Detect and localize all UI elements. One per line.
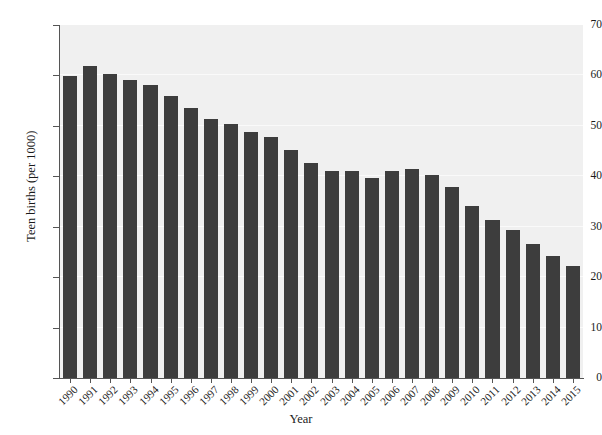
bar	[224, 124, 238, 378]
y-axis-tick	[53, 176, 59, 177]
gridline	[60, 226, 583, 227]
bar	[405, 169, 419, 378]
bar	[445, 187, 459, 378]
gridline	[60, 327, 583, 328]
y-axis-tick	[53, 227, 59, 228]
bar	[365, 178, 379, 378]
gridline	[60, 125, 583, 126]
y-axis-tick	[53, 328, 59, 329]
bar	[204, 119, 218, 378]
bar	[284, 150, 298, 378]
bar	[123, 80, 137, 378]
gridline	[60, 175, 583, 176]
y-axis-tick	[53, 126, 59, 127]
bar	[385, 171, 399, 378]
y-axis-tick-label: 40	[554, 170, 602, 182]
gridline	[60, 276, 583, 277]
bar	[244, 132, 258, 378]
y-axis-title: Teen births (per 1000)	[25, 66, 38, 306]
bar	[103, 74, 117, 378]
bar	[184, 108, 198, 378]
gridline	[60, 74, 583, 75]
y-axis-tick-label: 10	[554, 322, 602, 334]
bar	[83, 66, 97, 378]
bar	[304, 163, 318, 378]
y-axis-tick-label: 20	[554, 271, 602, 283]
bar	[526, 244, 540, 378]
bar	[345, 171, 359, 378]
bar	[465, 206, 479, 378]
bar	[506, 230, 520, 378]
bar	[485, 220, 499, 378]
y-axis-tick-label: 0	[554, 372, 602, 384]
bar	[425, 175, 439, 378]
bar	[143, 85, 157, 378]
x-axis-line	[59, 378, 584, 379]
bar	[63, 76, 77, 378]
y-axis-tick-label: 60	[554, 69, 602, 81]
bar	[325, 171, 339, 378]
y-axis-tick-label: 50	[554, 120, 602, 132]
bar	[264, 137, 278, 378]
y-axis-line	[59, 25, 60, 379]
y-axis-tick	[53, 277, 59, 278]
y-axis-tick	[53, 378, 59, 379]
plot-area	[60, 25, 583, 378]
bar-chart-figure: 010203040506070 199019911992199319941995…	[0, 0, 602, 435]
x-axis-title: Year	[0, 413, 602, 426]
y-axis-tick-label: 30	[554, 221, 602, 233]
y-axis-tick	[53, 25, 59, 26]
bar	[164, 96, 178, 378]
y-axis-tick-label: 70	[554, 19, 602, 31]
y-axis-tick	[53, 75, 59, 76]
